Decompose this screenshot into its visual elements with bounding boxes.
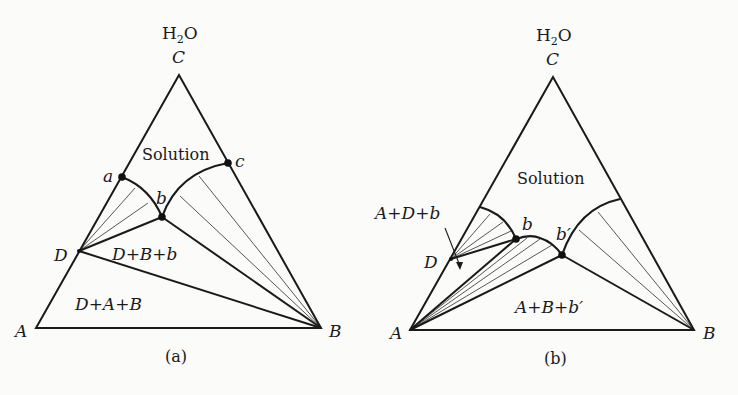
vertex-B-label: B <box>328 321 342 341</box>
curve-b-c <box>162 163 228 217</box>
vertex-A-label: A <box>388 323 402 343</box>
point-b-label: b <box>156 188 167 208</box>
point-D-marker <box>449 257 453 261</box>
panel-a: H2O C A B a b c D Solution D+B+b D+A+B (… <box>13 23 342 366</box>
vertex-C-label: C <box>546 49 559 69</box>
top-component-label: H2O <box>536 25 572 48</box>
tie-line <box>199 176 321 328</box>
point-c-marker <box>224 159 232 167</box>
region-solution-label: Solution <box>517 169 585 188</box>
region-DAB-label: D+A+B <box>74 294 142 314</box>
point-D-label: D <box>423 252 438 272</box>
arrow-head-icon <box>456 262 463 270</box>
panel-b: H2O C A B b b′ D Solution A+D+b A+B+b′ (… <box>373 25 716 368</box>
point-D-marker <box>77 249 81 253</box>
region-ADb-label: A+D+b <box>373 203 440 223</box>
point-a-label: a <box>103 166 113 186</box>
triangle-outline <box>36 75 321 328</box>
point-c-label: c <box>235 151 245 171</box>
tie-line <box>79 188 135 251</box>
region-solution-label: Solution <box>142 145 210 164</box>
vertex-A-label: A <box>13 321 27 341</box>
vertex-C-label: C <box>172 47 185 67</box>
line-b-B <box>162 217 321 328</box>
point-b-marker <box>158 213 166 221</box>
tie-line <box>451 222 503 259</box>
tie-line <box>598 212 694 330</box>
region-DBb-label: D+B+b <box>111 244 178 264</box>
tie-line <box>180 196 321 328</box>
point-bprime-marker <box>558 251 566 259</box>
caption-a: (a) <box>165 347 187 366</box>
region-ABbprime-label: A+B+b′ <box>513 297 583 317</box>
ternary-phase-diagrams: H2O C A B a b c D Solution D+B+b D+A+B (… <box>0 0 738 395</box>
tie-line <box>451 231 511 259</box>
caption-b: (b) <box>544 349 567 368</box>
tie-line <box>579 230 694 330</box>
point-bprime-label: b′ <box>556 224 571 244</box>
vertex-B-label: B <box>702 323 716 343</box>
point-a-marker <box>118 173 126 181</box>
point-D-label: D <box>53 245 68 265</box>
triangle-outline <box>410 77 694 330</box>
top-component-label: H2O <box>162 23 198 46</box>
point-b-marker <box>512 235 520 243</box>
point-b-label: b <box>522 214 533 234</box>
